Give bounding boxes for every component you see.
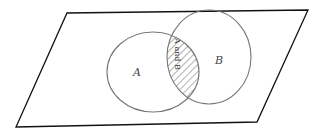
label-a: A xyxy=(132,66,141,79)
label-intersection: A and B xyxy=(173,37,182,70)
venn-diagram: A B A and B xyxy=(0,0,319,136)
label-b: B xyxy=(214,54,223,67)
universe-parallelogram xyxy=(16,10,308,127)
